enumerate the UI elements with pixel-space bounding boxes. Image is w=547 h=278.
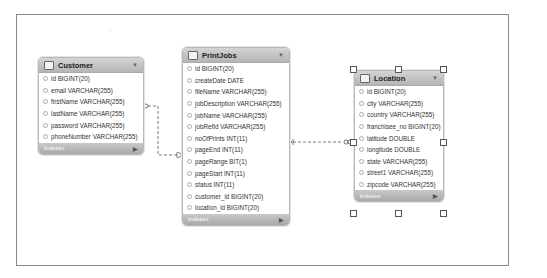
column-label: noOfPrints INT(11) — [195, 135, 247, 142]
column-icon — [359, 136, 364, 141]
column-label: state VARCHAR(255) — [367, 158, 427, 165]
table-header[interactable]: PrintJobs ▼ — [183, 48, 289, 63]
column-icon — [359, 101, 364, 106]
column-icon — [187, 171, 192, 176]
column-row[interactable]: customer_id BIGINT(20) — [183, 191, 289, 203]
column-label: fileName VARCHAR(255) — [195, 88, 267, 95]
column-row[interactable]: firstName VARCHAR(255) — [39, 96, 143, 108]
column-icon — [359, 182, 364, 187]
column-row[interactable]: jobName VARCHAR(255) — [183, 109, 289, 121]
relationship-customer-printjobs — [143, 104, 182, 158]
expand-indexes-icon[interactable]: ▶ — [133, 145, 138, 152]
column-row[interactable]: status INT(11) — [183, 179, 289, 191]
table-icon — [360, 74, 370, 83]
column-label: id BIGINT(20) — [195, 65, 234, 72]
column-row[interactable]: latitude DOUBLE — [355, 132, 443, 144]
table-title: PrintJobs — [202, 51, 278, 60]
table-customer[interactable]: Customer ▼ id BIGINT(20) email VARCHAR(2… — [38, 57, 144, 155]
column-label: status INT(11) — [195, 181, 234, 188]
column-icon — [43, 134, 48, 139]
resize-handle-middle-left[interactable] — [350, 139, 357, 146]
column-row[interactable]: franchisee_no BIGINT(20) — [355, 121, 443, 133]
column-icon — [43, 111, 48, 116]
table-icon — [188, 51, 198, 60]
column-row[interactable]: zipcode VARCHAR(255) — [355, 179, 443, 191]
column-icon — [187, 194, 192, 199]
column-label: latitude DOUBLE — [367, 135, 415, 142]
resize-handle-top-left[interactable] — [350, 66, 357, 73]
table-title: Customer — [58, 61, 132, 70]
indexes-footer[interactable]: Indexes ▶ — [355, 190, 443, 201]
column-label: jobRefId VARCHAR(255) — [195, 123, 265, 130]
column-label: longitude DOUBLE — [367, 146, 420, 153]
resize-handle-bottom-right[interactable] — [440, 210, 447, 217]
resize-handle-middle-right[interactable] — [440, 139, 447, 146]
table-header[interactable]: Location ▼ — [355, 71, 443, 86]
column-row[interactable]: jobRefId VARCHAR(255) — [183, 121, 289, 133]
column-icon — [187, 89, 192, 94]
column-label: id BIGINT(20) — [367, 88, 406, 95]
resize-handle-bottom-center[interactable] — [395, 210, 402, 217]
column-icon — [187, 182, 192, 187]
resize-handle-top-center[interactable] — [395, 66, 402, 73]
column-label: country VARCHAR(255) — [367, 111, 434, 118]
column-row[interactable]: jobDescription VARCHAR(255) — [183, 98, 289, 110]
column-row[interactable]: createDate DATE — [183, 75, 289, 87]
column-row[interactable]: street1 VARCHAR(255) — [355, 167, 443, 179]
indexes-footer[interactable]: Indexes ▶ — [183, 214, 289, 225]
column-label: id BIGINT(20) — [51, 75, 90, 82]
indexes-label: Indexes — [188, 216, 279, 222]
column-row[interactable]: noOfPrints INT(11) — [183, 133, 289, 145]
column-row[interactable]: longitude DOUBLE — [355, 144, 443, 156]
column-icon — [359, 170, 364, 175]
table-header[interactable]: Customer ▼ — [39, 58, 143, 73]
column-row[interactable]: city VARCHAR(255) — [355, 98, 443, 110]
table-printjobs[interactable]: PrintJobs ▼ id BIGINT(20) createDate DAT… — [182, 47, 290, 226]
column-label: phoneNumber VARCHAR(255) — [51, 133, 138, 140]
indexes-label: Indexes — [360, 193, 433, 199]
column-row[interactable]: id BIGINT(20) — [355, 86, 443, 98]
column-row[interactable]: id BIGINT(20) — [183, 63, 289, 75]
expand-indexes-icon[interactable]: ▶ — [433, 192, 438, 199]
expand-indexes-icon[interactable]: ▶ — [279, 216, 284, 223]
column-row[interactable]: location_id BIGINT(20) — [183, 202, 289, 214]
column-label: createDate DATE — [195, 77, 244, 84]
column-label: firstName VARCHAR(255) — [51, 98, 125, 105]
column-icon — [43, 99, 48, 104]
column-label: location_id BIGINT(20) — [195, 204, 259, 211]
resize-handle-bottom-left[interactable] — [350, 210, 357, 217]
column-row[interactable]: pageStart INT(11) — [183, 167, 289, 179]
column-icon — [187, 113, 192, 118]
column-row[interactable]: email VARCHAR(255) — [39, 85, 143, 97]
column-icon — [359, 147, 364, 152]
column-icon — [187, 78, 192, 83]
column-row[interactable]: state VARCHAR(255) — [355, 156, 443, 168]
column-icon — [359, 89, 364, 94]
column-icon — [359, 112, 364, 117]
column-icon — [43, 123, 48, 128]
column-row[interactable]: pageRange BIT(1) — [183, 156, 289, 168]
column-row[interactable]: password VARCHAR(255) — [39, 119, 143, 131]
column-row[interactable]: id BIGINT(20) — [39, 73, 143, 85]
column-label: city VARCHAR(255) — [367, 100, 423, 107]
column-row[interactable]: fileName VARCHAR(255) — [183, 86, 289, 98]
column-row[interactable]: phoneNumber VARCHAR(255) — [39, 131, 143, 143]
table-location[interactable]: Location ▼ id BIGINT(20) city VARCHAR(25… — [354, 70, 444, 202]
column-icon — [187, 101, 192, 106]
collapse-arrow-icon[interactable]: ▼ — [432, 75, 438, 81]
column-label: street1 VARCHAR(255) — [367, 169, 433, 176]
column-label: jobName VARCHAR(255) — [195, 112, 267, 119]
column-row[interactable]: lastName VARCHAR(255) — [39, 108, 143, 120]
resize-handle-top-right[interactable] — [440, 66, 447, 73]
column-label: pageRange BIT(1) — [195, 158, 247, 165]
indexes-footer[interactable]: Indexes ▶ — [39, 143, 143, 154]
collapse-arrow-icon[interactable]: ▼ — [278, 52, 284, 58]
collapse-arrow-icon[interactable]: ▼ — [132, 62, 138, 68]
column-row[interactable]: country VARCHAR(255) — [355, 109, 443, 121]
column-icon — [43, 76, 48, 81]
column-icon — [187, 124, 192, 129]
column-row[interactable]: pageEnd INT(11) — [183, 144, 289, 156]
column-label: password VARCHAR(255) — [51, 122, 125, 129]
column-icon — [187, 136, 192, 141]
column-label: pageEnd INT(11) — [195, 146, 243, 153]
